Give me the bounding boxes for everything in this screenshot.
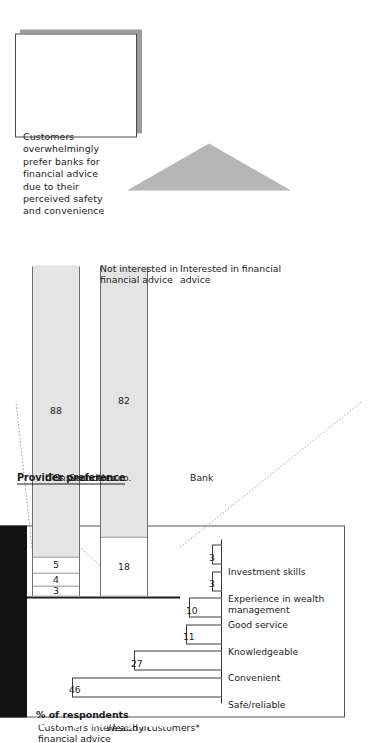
bar-chart-plot-area: 46Safe/reliable27Convenient11Knowledgeab…: [55, 539, 330, 703]
stack-segment-bank[interactable]: 88: [33, 265, 79, 556]
bar-value-label: 10: [186, 604, 198, 615]
bar-category-label: Investment skills: [228, 566, 332, 577]
bar-rect[interactable]: [134, 651, 222, 671]
callout-arrow-icon: [127, 143, 291, 190]
bar-category-label: Safe/reliable: [228, 698, 332, 709]
bar-category-label: Good service: [228, 619, 332, 630]
bar-value-label: 11: [183, 631, 195, 642]
callout-box: Customers overwhelmingly prefer banks fo…: [15, 33, 137, 137]
stack-segment-value: 82: [118, 395, 130, 406]
bar-value-label: 3: [209, 578, 215, 589]
legend-item-securities-co: Securities co.: [69, 471, 131, 482]
stack-segment-interested[interactable]: 82: [101, 265, 147, 536]
bar-category-label: Knowledgeable: [228, 645, 332, 656]
bar-category-label: Convenient: [228, 672, 332, 683]
bar-value-label: 27: [131, 657, 143, 668]
bar-chart-title-bar: Reasons for preferring banks: [0, 525, 27, 717]
stack-segment-value: 88: [50, 405, 62, 416]
note-interested-in-financial-advice: Interested in financial advice: [180, 262, 300, 284]
legend-item-bank: Bank: [190, 471, 213, 482]
bar-category-label: Experience in wealth management: [228, 592, 332, 614]
callout-text: Customers overwhelmingly prefer banks fo…: [23, 130, 115, 217]
bar-value-label: 46: [69, 684, 81, 695]
bar-value-label: 3: [209, 551, 215, 562]
bar-chart-axis-caption: % of respondents: [36, 708, 129, 719]
bar-rect[interactable]: [72, 677, 222, 697]
